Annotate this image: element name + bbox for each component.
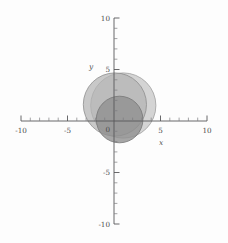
inner-circle [96, 96, 143, 143]
y-tick-label-neg10: -10 [98, 220, 110, 229]
x-tick-label-neg5: -5 [64, 126, 71, 135]
y-axis-label: y [88, 62, 94, 71]
x-tick-label-5: 5 [158, 126, 163, 135]
x-tick-label-neg10: -10 [15, 126, 27, 135]
origin-label: 0 [105, 125, 110, 134]
y-tick-label-neg5: -5 [103, 168, 110, 177]
plot-canvas: -10 -5 5 10 10 5 -5 -10 0 y x [0, 0, 228, 243]
x-axis-label: x [159, 138, 164, 147]
y-tick-label-5: 5 [105, 65, 110, 74]
x-tick-label-10: 10 [202, 126, 212, 135]
y-tick-label-10: 10 [101, 14, 111, 23]
cartesian-plot: -10 -5 5 10 10 5 -5 -10 0 y x [0, 0, 228, 243]
circle-shapes-group [83, 73, 156, 143]
